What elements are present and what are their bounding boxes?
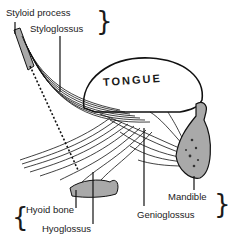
label-styloglossus: Styloglossus xyxy=(30,24,83,34)
label-genioglossus: Genioglossus xyxy=(137,210,195,220)
label-hyoid-bone: Hyoid bone xyxy=(26,205,74,215)
label-styloid-process: Styloid process xyxy=(6,8,70,18)
hyoid-bone-shape xyxy=(70,180,118,197)
bracket-bottom-right: } xyxy=(214,191,231,217)
hyoglossus-fibers xyxy=(20,118,152,186)
bracket-bottom-left: { xyxy=(12,204,29,230)
bracket-top: } xyxy=(96,8,113,34)
label-hyoglossus: Hyoglossus xyxy=(42,224,91,234)
styloid-process-shape xyxy=(14,28,34,70)
label-mandible: Mandible xyxy=(168,192,207,202)
